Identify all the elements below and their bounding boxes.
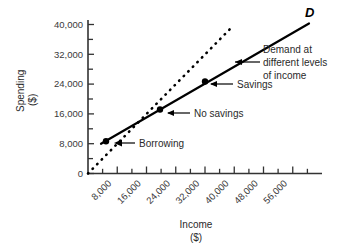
y-tick-label-40000: 40,000 [54,19,83,30]
y-axis-units: ($) [27,94,38,106]
annotation-borrowing-label: Borrowing [139,138,184,149]
annotation-no-savings-label: No savings [194,108,243,119]
y-tick-label-8000: 8,000 [59,138,83,149]
y-tick-label-32000: 32,000 [54,49,83,60]
data-point-no-savings [157,106,163,112]
x-axis-title: Income [180,219,213,230]
chart-container: 40,000 32,000 24,000 16,000 8,000 0 Spen… [0,0,363,250]
annotation-demand-line2: different levels [263,57,327,68]
y-tick-label-0: 0 [78,168,83,179]
y-tick-label-24000: 24,000 [54,78,83,89]
data-point-savings [202,78,208,84]
spending-income-chart: 40,000 32,000 24,000 16,000 8,000 0 Spen… [0,0,363,250]
y-tick-label-16000: 16,000 [54,108,83,119]
chart-background [0,0,363,250]
x-axis-units: ($) [190,232,202,243]
annotation-demand-line1: Demand at [263,44,312,55]
curve-label-d: D [305,5,315,20]
data-point-borrowing [103,138,109,144]
y-axis-title: Spending [15,70,26,112]
annotation-savings-label: Savings [237,79,273,90]
